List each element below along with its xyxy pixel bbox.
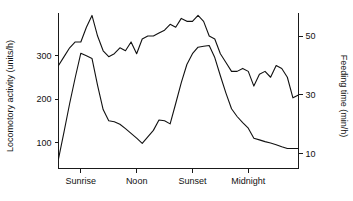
left-tick-label: 100 (36, 138, 51, 148)
x-category-label: Sunset (178, 176, 207, 186)
chart-container: 100200300 103050 SunriseNoonSunsetMidnig… (0, 0, 353, 201)
x-category-label: Sunrise (66, 176, 97, 186)
series-line-locomotory-activity (59, 45, 299, 159)
series-lines (59, 15, 299, 159)
left-tick-label: 300 (36, 51, 51, 61)
x-category-label: Midnight (231, 176, 266, 186)
x-category-label: Noon (126, 176, 148, 186)
axis-lines (59, 13, 299, 169)
right-tick-label: 10 (306, 149, 316, 159)
left-tick-label: 200 (36, 94, 51, 104)
left-axis-ticks (55, 56, 59, 143)
line-chart: 100200300 103050 SunriseNoonSunsetMidnig… (0, 0, 353, 201)
series-line-feeding-time (59, 15, 299, 97)
left-axis-tick-labels: 100200300 (36, 51, 51, 148)
x-axis-category-labels: SunriseNoonSunsetMidnight (66, 176, 266, 186)
bottom-axis-ticks (81, 169, 248, 173)
right-tick-label: 50 (306, 31, 316, 41)
right-tick-label: 30 (306, 90, 316, 100)
right-axis-title: Feeding time (min/h) (339, 55, 349, 138)
left-axis-title: Locomotory activity (units/h) (5, 40, 15, 152)
right-axis-ticks (299, 36, 303, 154)
right-axis-tick-labels: 103050 (306, 31, 316, 159)
